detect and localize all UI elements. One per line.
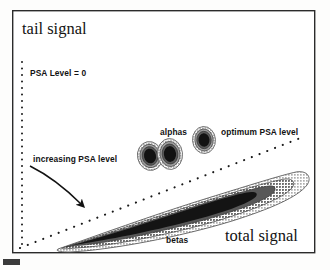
- increasing-psa-level-label: increasing PSA level: [33, 155, 117, 163]
- psa-level-zero-label: PSA Level = 0: [30, 69, 86, 77]
- x-axis-label: total signal: [225, 228, 298, 245]
- optimum-psa-level-label: optimum PSA level: [221, 128, 298, 136]
- figure-root: tail signal total signal PSA Level = 0 o…: [0, 0, 330, 270]
- betas-label: betas: [166, 236, 188, 244]
- y-axis-label: tail signal: [22, 21, 87, 38]
- alphas-label: alphas: [160, 128, 187, 136]
- scan-corner-mark: [3, 259, 20, 265]
